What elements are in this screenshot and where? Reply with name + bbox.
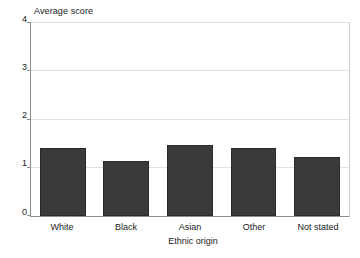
x-tick-label: Asian (158, 222, 222, 233)
x-tick-label: Not stated (286, 222, 350, 233)
bar[interactable] (103, 161, 149, 216)
x-axis-labels: WhiteBlackAsianOtherNot stated (30, 222, 350, 236)
bar[interactable] (40, 148, 86, 216)
x-tick-label: White (30, 222, 94, 233)
bar-slot (222, 23, 286, 216)
bars-layer (31, 23, 349, 216)
x-axis-title: Ethnic origin (0, 236, 360, 247)
bar[interactable] (294, 157, 340, 216)
x-tick-label: Other (222, 222, 286, 233)
bar-chart: Average score 01234 WhiteBlackAsianOther… (0, 0, 360, 258)
bar-slot (158, 23, 222, 216)
bar-slot (95, 23, 159, 216)
bar[interactable] (231, 148, 277, 216)
plot-area: 01234 (30, 22, 350, 217)
x-tick-label: Black (94, 222, 158, 233)
bar-slot (31, 23, 95, 216)
y-axis-title: Average score (34, 6, 93, 17)
bar[interactable] (167, 145, 213, 216)
bar-slot (285, 23, 349, 216)
